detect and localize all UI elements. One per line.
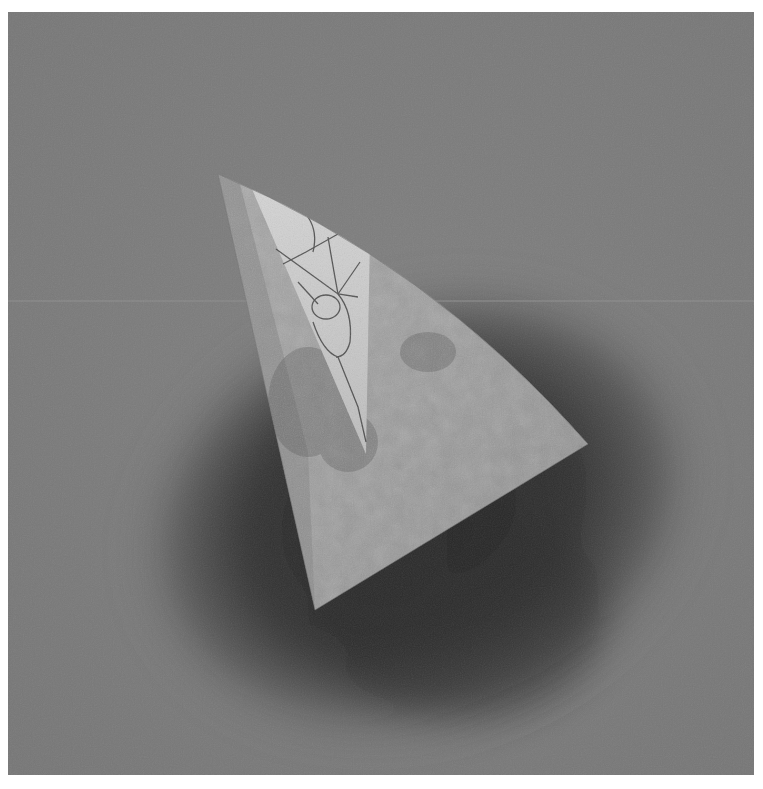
film-grain: [8, 12, 754, 775]
photo-canvas: [8, 12, 754, 775]
photo-frame: Grayscale photograph of a sector-shaped …: [8, 12, 754, 775]
